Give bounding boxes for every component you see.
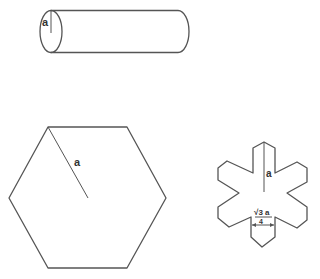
star-width-dimension: √3 a 4 <box>252 208 274 227</box>
dimension-denominator: 4 <box>259 218 263 225</box>
cylinder-radius-label: a <box>42 16 49 28</box>
hexagon-figure: a <box>9 127 166 268</box>
diagram-canvas: a a a √3 a 4 <box>0 0 320 279</box>
dimension-numerator: √3 a <box>254 208 270 217</box>
dimension-arrow-right <box>270 223 274 227</box>
cylinder-figure: a <box>40 11 189 53</box>
cylinder-body <box>51 11 189 53</box>
hexagon-radius-label: a <box>74 156 81 168</box>
star-figure: a √3 a 4 <box>218 142 307 247</box>
hexagon-radius-line <box>48 127 88 198</box>
dimension-arrow-left <box>252 223 256 227</box>
star-radius-label: a <box>266 168 272 179</box>
star-outline <box>218 142 307 247</box>
